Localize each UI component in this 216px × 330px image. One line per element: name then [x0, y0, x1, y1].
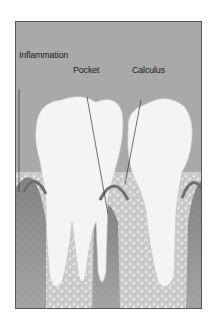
label-pocket: Pocket [73, 65, 99, 75]
tooth-diagram [16, 22, 202, 309]
label-inflammation: Inflammation [19, 50, 68, 60]
label-calculus: Calculus [132, 65, 165, 75]
diagram-frame [15, 21, 202, 309]
